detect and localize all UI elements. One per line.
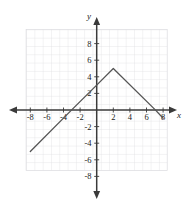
x-axis-label: x [176,110,181,120]
x-tick-label: 2 [111,112,115,122]
y-tick-label: -2 [84,122,91,132]
y-tick-label: -8 [84,171,91,181]
x-tick-label: 6 [144,112,148,122]
x-tick-label: -2 [77,112,84,122]
y-axis-label: y [86,11,91,21]
x-tick-label: -8 [27,112,34,122]
x-tick-label: -6 [43,112,50,122]
y-tick-label: -6 [84,155,91,165]
y-tick-label: -4 [84,138,92,148]
x-tick-label: 4 [128,112,133,122]
y-tick-label: 8 [87,39,91,49]
graph-canvas: -8 -6 -4 -2 2 4 6 8 8 6 4 2 -2 -4 -6 -8 … [0,0,186,204]
y-tick-label: 6 [87,55,91,65]
coordinate-plane-figure: -8 -6 -4 -2 2 4 6 8 8 6 4 2 -2 -4 -6 -8 … [0,0,186,204]
